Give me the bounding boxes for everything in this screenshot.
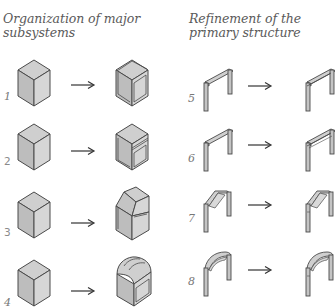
box-after-panels-1	[114, 58, 154, 110]
right-title-line-1: Refinement of the	[189, 12, 301, 26]
portal-frame-after-5	[303, 66, 335, 114]
right-column-title: Refinement of the primary structure	[189, 12, 301, 40]
box-after-gable-roof-3	[114, 186, 154, 244]
row-number-5: 5	[188, 92, 195, 105]
pitched-portal-frame-after-7	[303, 186, 335, 234]
row-number-4: 4	[4, 296, 11, 308]
arrow-icon	[71, 146, 97, 156]
arrow-icon	[248, 200, 274, 210]
box-before-4	[16, 258, 54, 308]
box-before-2	[16, 122, 54, 174]
right-title-line-2: primary structure	[189, 26, 301, 40]
row-number-1: 1	[4, 90, 11, 103]
box-after-vaulted-roof-4	[114, 254, 156, 308]
arrow-icon	[248, 140, 274, 150]
row-number-8: 8	[188, 275, 195, 288]
arrow-icon	[248, 265, 274, 275]
portal-frame-after-6	[303, 126, 335, 174]
left-column-title: Organization of major subsystems	[3, 12, 140, 40]
arrow-icon	[71, 218, 97, 228]
arched-portal-frame-after-8	[303, 248, 335, 298]
row-number-3: 3	[4, 226, 11, 238]
box-before-1	[16, 58, 54, 110]
row-number-2: 2	[4, 155, 11, 167]
portal-frame-before-6	[201, 126, 237, 174]
box-after-base-band-2	[114, 122, 154, 174]
pitched-portal-frame-before-7	[201, 186, 237, 234]
row-number-7: 7	[188, 212, 195, 225]
arched-portal-frame-before-8	[201, 248, 237, 298]
box-before-3	[16, 190, 54, 242]
arrow-icon	[71, 80, 97, 90]
arrow-icon	[248, 81, 274, 91]
left-title-line-1: Organization of major	[3, 12, 140, 26]
portal-frame-before-5	[201, 66, 237, 114]
arrow-icon	[71, 286, 97, 296]
row-number-6: 6	[188, 152, 195, 165]
left-title-line-2: subsystems	[3, 26, 140, 40]
